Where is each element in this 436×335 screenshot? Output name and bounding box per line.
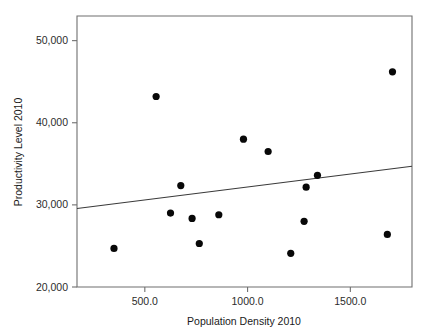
x-tick-label: 1000.0 <box>232 295 264 307</box>
data-point <box>188 215 195 222</box>
data-point <box>314 172 321 179</box>
data-point <box>196 240 203 247</box>
data-point <box>240 136 247 143</box>
data-point <box>265 148 272 155</box>
y-tick-label: 50,000 <box>36 34 68 46</box>
y-tick-label: 20,000 <box>36 281 68 293</box>
data-point <box>110 245 117 252</box>
data-point <box>389 68 396 75</box>
data-point <box>303 184 310 191</box>
data-point <box>153 93 160 100</box>
y-tick-label: 40,000 <box>36 116 68 128</box>
y-tick-label: 30,000 <box>36 198 68 210</box>
plot-canvas: 20,00030,00040,00050,000 500.01000.01500… <box>0 0 436 335</box>
data-point <box>301 218 308 225</box>
data-point <box>287 250 294 257</box>
data-point <box>384 231 391 238</box>
x-axis-title: Population Density 2010 <box>187 315 301 327</box>
x-tick-label: 1500.0 <box>334 295 366 307</box>
data-point <box>177 182 184 189</box>
y-axis-title: Productivity Level 2010 <box>12 98 24 207</box>
scatter-plot-figure: 20,00030,00040,00050,000 500.01000.01500… <box>0 0 436 335</box>
x-tick-label: 500.0 <box>132 295 158 307</box>
data-point <box>167 209 174 216</box>
data-point <box>215 211 222 218</box>
